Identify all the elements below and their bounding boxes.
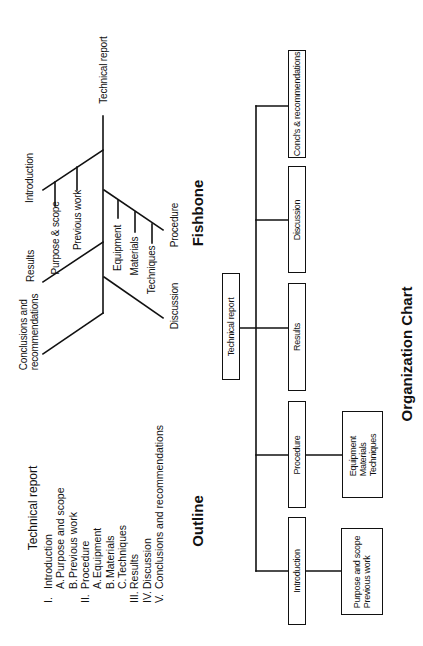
outline-text: Previous work bbox=[67, 512, 79, 578]
outline-item-5: V. Conclusions and recommendations bbox=[153, 425, 165, 603]
fishbone-leaf-previous-work: Previous work bbox=[72, 190, 83, 250]
org-box-introduction: Introduction bbox=[288, 517, 306, 625]
outline-text: Introduction bbox=[42, 534, 54, 589]
org-detail-box-introduction: Purpose and scope Previous work bbox=[341, 528, 383, 615]
outline-num: III. bbox=[128, 589, 140, 603]
outline-letter: C. bbox=[116, 578, 128, 589]
org-box-conclusions: Concl's & recommendations bbox=[288, 50, 306, 158]
org-box-label: Procedure bbox=[292, 435, 302, 474]
org-root-label: Technical report bbox=[226, 297, 236, 356]
outline-heading: Technical report bbox=[26, 466, 40, 551]
org-detail-item: Materials bbox=[358, 433, 368, 476]
org-detail-item: Previous work bbox=[362, 535, 372, 607]
fishbone-leaf-materials: Materials bbox=[129, 237, 140, 276]
outline-text: Discussion bbox=[141, 538, 153, 589]
org-detail-item: Equipment bbox=[348, 433, 358, 476]
org-box-label: Results bbox=[292, 323, 302, 351]
outline-subitem: A. Purpose and scope bbox=[54, 425, 66, 603]
fishbone-root-label: Technical report bbox=[98, 36, 109, 103]
outline-text: Conclusions and recommendations bbox=[153, 425, 165, 589]
outline-num: V. bbox=[153, 589, 165, 603]
outline-item-4: IV. Discussion bbox=[140, 425, 152, 603]
outline-text: Purpose and scope bbox=[54, 488, 66, 578]
outline-text: Equipment bbox=[91, 528, 103, 578]
fishbone-conclusions-line-1: Conclusions and bbox=[18, 294, 29, 370]
fishbone-branch-introduction: Introduction bbox=[24, 153, 35, 203]
outline-letter: A. bbox=[91, 578, 103, 589]
fishbone-branch-procedure: Procedure bbox=[169, 203, 180, 247]
outline-num: IV. bbox=[141, 589, 153, 603]
outline-num: I. bbox=[42, 589, 54, 603]
org-detail-box-procedure: Equipment Materials Techniques bbox=[342, 411, 383, 498]
outline-letter: B. bbox=[67, 578, 79, 589]
org-box-results: Results bbox=[288, 283, 306, 391]
org-detail-list: Purpose and scope Previous work bbox=[352, 535, 372, 607]
org-detail-item: Techniques bbox=[368, 433, 378, 476]
fishbone-branch-conclusions: Conclusions and recommendations bbox=[18, 294, 40, 370]
org-detail-item: Purpose and scope bbox=[352, 535, 362, 607]
fishbone-leaf-techniques: Techniques bbox=[146, 246, 157, 295]
fishbone-title: Fishbone bbox=[189, 180, 206, 247]
outline-item-3: III. Results bbox=[128, 425, 140, 603]
outline-subitem: B. Materials bbox=[103, 425, 115, 603]
org-box-label: Discussion bbox=[292, 199, 302, 240]
org-detail-list: Equipment Materials Techniques bbox=[348, 433, 378, 476]
fishbone-leaf-equipment: Equipment bbox=[112, 225, 123, 271]
outline-text: Materials bbox=[104, 535, 116, 578]
outline-text: Techniques bbox=[116, 525, 128, 578]
org-box-label: Concl's & recommendations bbox=[292, 52, 302, 156]
outline-text: Results bbox=[128, 554, 140, 589]
fishbone-bone-conclusions bbox=[43, 313, 103, 354]
org-box-label: Introduction bbox=[292, 549, 302, 592]
fishbone-bone-introduction bbox=[43, 150, 103, 190]
org-box-procedure: Procedure bbox=[288, 401, 306, 508]
fishbone-branch-results: Results bbox=[25, 250, 36, 282]
outline-item-2: II. Procedure bbox=[79, 425, 91, 603]
outline-num: II. bbox=[79, 589, 91, 603]
fishbone-conclusions-line-2: recommendations bbox=[29, 294, 40, 370]
outline-subitem: B. Previous work bbox=[67, 425, 79, 603]
outline-item-1: I. Introduction bbox=[42, 425, 54, 603]
outline-letter: B. bbox=[104, 578, 116, 589]
outline-title: Outline bbox=[189, 495, 206, 547]
outline-list: I. Introduction A. Purpose and scope B. … bbox=[42, 425, 165, 603]
outline-letter: A. bbox=[54, 578, 66, 589]
fishbone-branch-discussion: Discussion bbox=[169, 283, 180, 329]
outline-subitem: C. Techniques bbox=[116, 425, 128, 603]
org-chart-title: Organization Chart bbox=[398, 286, 415, 421]
org-root-box: Technical report bbox=[222, 273, 240, 380]
outline-subitem: A. Equipment bbox=[91, 425, 103, 603]
fishbone-leaf-purpose: Purpose & scope bbox=[50, 201, 61, 274]
org-box-discussion: Discussion bbox=[288, 166, 306, 273]
outline-text: Procedure bbox=[79, 541, 91, 589]
